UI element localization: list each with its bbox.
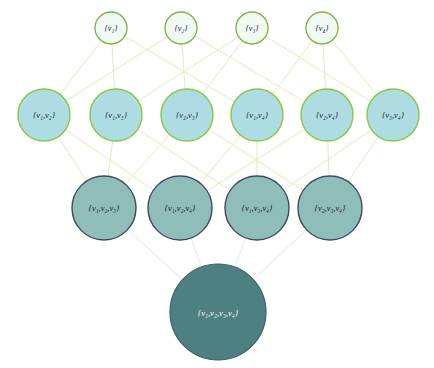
lattice-node-v4[interactable]: {v₄} [306, 12, 338, 44]
lattice-node-v1v4[interactable]: {v₁,v₄} [231, 89, 283, 141]
node-label: {v₃} [245, 24, 259, 33]
node-label: {v₁,v₂,v₃} [89, 204, 120, 213]
node-label: {v₁,v₄} [246, 111, 269, 120]
edge-layer [58, 36, 378, 279]
edge-pair-triple [125, 134, 169, 184]
node-label: {v₂,v₃} [176, 111, 199, 120]
lattice-node-v1v3v4[interactable]: {v₁,v₃,v₄} [225, 176, 289, 240]
edge-pair-triple [108, 141, 113, 176]
lattice-node-v1v2v3[interactable]: {v₁,v₂,v₃} [72, 176, 136, 240]
lattice-node-v1v2[interactable]: {v₁,v₂} [18, 89, 70, 141]
lattice-node-v2v3v4[interactable]: {v₂,v₃,v₄} [298, 176, 362, 240]
hasse-diagram: {v₁}{v₂}{v₃}{v₄}{v₁,v₂}{v₁,v₃}{v₂,v₃}{v₁… [0, 0, 434, 368]
lattice-node-v1v3[interactable]: {v₁,v₃} [90, 89, 142, 141]
node-label: {v₁,v₃} [105, 111, 128, 120]
lattice-node-v2v3[interactable]: {v₂,v₃} [161, 89, 213, 141]
edge-triple-fullset [191, 238, 202, 267]
node-label: {v₃,v₄} [382, 111, 405, 120]
edge-singleton-pair [323, 44, 326, 89]
lattice-node-v2[interactable]: {v₂} [165, 12, 197, 44]
node-label: {v₂,v₄} [316, 111, 339, 120]
edge-singleton-pair [60, 41, 101, 95]
edge-pair-triple [348, 137, 378, 182]
edge-triple-fullset [235, 238, 246, 267]
lattice-node-v2v4[interactable]: {v₂,v₄} [301, 89, 353, 141]
node-label: {v₁,v₂,v₄} [165, 204, 196, 213]
node-label: {v₄} [315, 24, 329, 33]
lattice-node-v1[interactable]: {v₁} [95, 12, 127, 44]
lattice-node-v3v4[interactable]: {v₃,v₄} [367, 89, 419, 141]
edge-pair-triple [58, 137, 87, 181]
edge-singleton-pair [112, 44, 115, 89]
node-label: {v₂,v₃,v₄} [315, 204, 346, 213]
edge-singleton-pair [182, 44, 185, 89]
node-label: {v₁,v₃,v₄} [242, 204, 273, 213]
lattice-node-v1v2v4[interactable]: {v₁,v₂,v₄} [148, 176, 212, 240]
node-layer: {v₁}{v₂}{v₃}{v₄}{v₁,v₂}{v₁,v₃}{v₂,v₃}{v₁… [18, 12, 419, 360]
edge-singleton-pair [332, 40, 376, 94]
edge-singleton-pair [203, 41, 243, 94]
edge-pair-triple [200, 135, 240, 183]
node-label: {v₂} [174, 24, 188, 33]
lattice-node-v1v2v3v4[interactable]: {v₁,v₂,v₃,v₄} [170, 264, 266, 360]
edge-singleton-pair [273, 41, 313, 94]
lattice-node-v3[interactable]: {v₃} [236, 12, 268, 44]
node-label: {v₁} [104, 24, 118, 33]
lattice-canvas: {v₁}{v₂}{v₃}{v₄}{v₁,v₂}{v₁,v₃}{v₂,v₃}{v₁… [0, 0, 434, 368]
node-label: {v₁,v₂,v₃,v₄} [198, 308, 239, 318]
node-label: {v₁,v₂} [33, 111, 56, 120]
